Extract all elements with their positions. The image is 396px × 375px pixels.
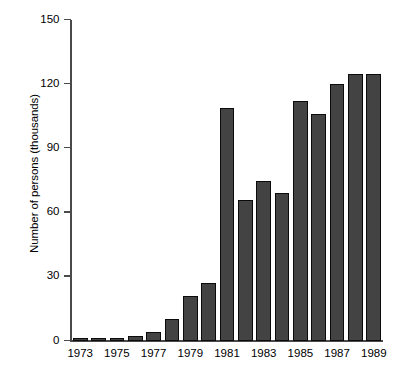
bar (183, 296, 198, 341)
y-tick-label: 150 (40, 11, 59, 27)
x-axis-labels: 197319751977197919811983198519871989 (71, 341, 383, 365)
bar (146, 332, 161, 341)
y-tick-label: 120 (40, 75, 59, 91)
y-tick-label: 60 (47, 203, 60, 219)
bar (238, 200, 253, 341)
y-axis-title: Number of persons (thousands) (28, 44, 41, 304)
y-tick-label: 0 (53, 332, 59, 348)
x-tick-label: 1977 (141, 346, 167, 360)
bar (311, 114, 326, 341)
bar (165, 319, 180, 341)
y-tick-label: 30 (47, 267, 60, 283)
y-tick: 90 (64, 147, 72, 148)
bar (275, 193, 290, 341)
bar (256, 181, 271, 342)
x-tick-label: 1985 (288, 346, 314, 360)
bar-chart: Number of persons (thousands) 0306090120… (0, 0, 396, 375)
x-tick-label: 1973 (67, 346, 93, 360)
x-tick-label: 1979 (177, 346, 203, 360)
x-tick-label: 1989 (361, 346, 387, 360)
y-tick-label: 90 (47, 139, 60, 155)
x-tick-label: 1981 (214, 346, 240, 360)
x-tick-label: 1975 (104, 346, 130, 360)
plot-area: 0306090120150 19731975197719791981198319… (71, 20, 383, 341)
bar-series (71, 20, 383, 341)
y-tick: 0 (64, 340, 72, 341)
y-tick: 120 (64, 83, 72, 84)
y-tick: 150 (64, 19, 72, 20)
bar (330, 84, 345, 341)
y-tick: 60 (64, 211, 72, 212)
bar (220, 108, 235, 341)
bar (348, 74, 363, 342)
x-tick-label: 1983 (251, 346, 277, 360)
bar (201, 283, 216, 341)
bar (366, 74, 381, 342)
x-tick-label: 1987 (324, 346, 350, 360)
y-tick: 30 (64, 275, 72, 276)
bar (293, 101, 308, 341)
